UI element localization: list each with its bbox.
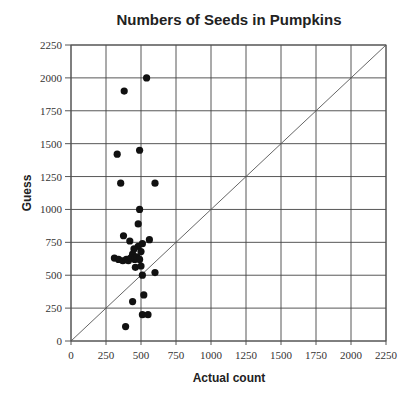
x-tick-label: 2250 <box>375 349 398 361</box>
y-tick-label: 1500 <box>40 138 63 150</box>
y-axis-label: Guess <box>20 174 34 211</box>
y-tick-label: 0 <box>57 335 63 347</box>
axis-ticks: 0250500750100012501500175020002250025050… <box>40 39 398 361</box>
data-point <box>136 147 143 154</box>
data-point <box>143 74 150 81</box>
y-tick-label: 1000 <box>40 203 63 215</box>
y-tick-label: 500 <box>46 269 63 281</box>
x-tick-label: 1500 <box>270 349 293 361</box>
data-point <box>139 240 146 247</box>
x-tick-label: 1000 <box>200 349 223 361</box>
data-point <box>136 206 143 213</box>
y-tick-label: 2000 <box>40 72 63 84</box>
x-tick-label: 0 <box>68 349 74 361</box>
data-point <box>126 237 133 244</box>
y-tick-label: 2250 <box>40 39 63 51</box>
x-axis-label: Actual count <box>193 371 266 385</box>
x-tick-label: 1250 <box>235 349 258 361</box>
x-tick-label: 500 <box>133 349 150 361</box>
data-point <box>121 87 128 94</box>
data-point <box>114 151 121 158</box>
x-tick-label: 250 <box>98 349 115 361</box>
x-tick-label: 750 <box>168 349 185 361</box>
chart-title: Numbers of Seeds in Pumpkins <box>116 11 341 28</box>
x-tick-label: 1750 <box>305 349 328 361</box>
data-point <box>122 323 129 330</box>
data-point <box>151 180 158 187</box>
data-point <box>129 298 136 305</box>
reference-line-y-equals-x <box>71 45 386 341</box>
y-tick-label: 1250 <box>40 171 63 183</box>
y-tick-label: 750 <box>46 236 63 248</box>
data-point <box>137 262 144 269</box>
x-tick-label: 2000 <box>340 349 363 361</box>
data-point <box>139 272 146 279</box>
y-tick-label: 250 <box>46 302 63 314</box>
scatter-chart: Numbers of Seeds in Pumpkins 02505007501… <box>0 0 416 401</box>
y-tick-label: 1750 <box>40 105 63 117</box>
data-point <box>136 256 143 263</box>
data-point <box>151 269 158 276</box>
data-point <box>120 232 127 239</box>
data-point <box>140 291 147 298</box>
data-points <box>111 74 159 330</box>
data-point <box>144 311 151 318</box>
data-point <box>146 236 153 243</box>
data-point <box>135 220 142 227</box>
data-point <box>117 180 124 187</box>
